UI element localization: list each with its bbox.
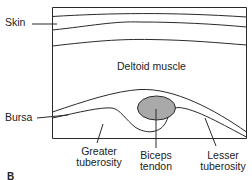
label-bursa: Bursa [5, 112, 32, 123]
label-greater-tuberosity-line2: tuberosity [68, 157, 130, 168]
skin-layers [53, 14, 247, 46]
label-lesser-tuberosity: Lesser tuberosity [194, 150, 252, 172]
label-biceps-tendon-line2: tendon [128, 161, 184, 172]
leader-lines [32, 24, 216, 148]
label-skin: Skin [5, 17, 25, 28]
label-lesser-tuberosity-line2: tuberosity [194, 161, 252, 172]
panel-letter: B [7, 171, 14, 180]
label-biceps-tendon: Biceps tendon [128, 150, 184, 172]
label-deltoid-muscle: Deltoid muscle [117, 61, 186, 72]
label-greater-tuberosity: Greater tuberosity [68, 146, 130, 168]
